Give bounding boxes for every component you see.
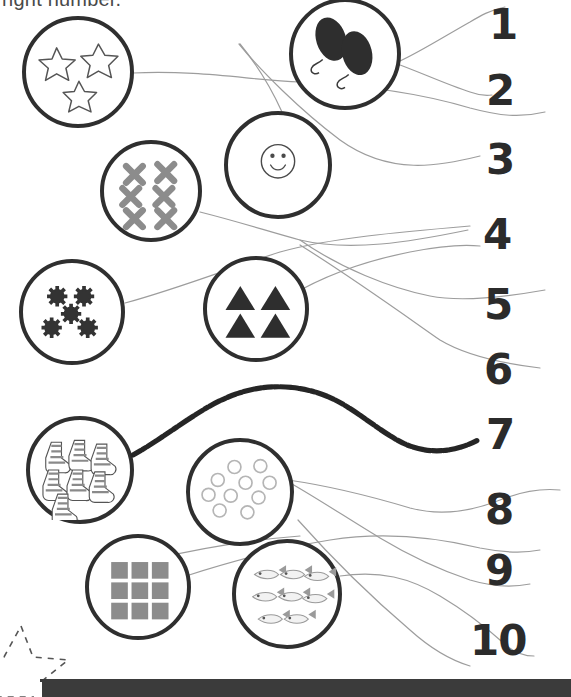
number-item-3[interactable]: 3 (486, 139, 514, 181)
number-column: 1 2 3 4 5 6 7 8 9 10 (0, 0, 571, 697)
worksheet-page: right number. (0, 0, 571, 697)
number-item-2[interactable]: 2 (486, 70, 514, 112)
number-item-6[interactable]: 6 (484, 349, 512, 391)
page-footer-bar (40, 679, 571, 697)
number-item-1[interactable]: 1 (489, 4, 517, 46)
number-item-5[interactable]: 5 (484, 284, 512, 326)
number-item-7[interactable]: 7 (486, 414, 514, 456)
number-item-9[interactable]: 9 (485, 550, 513, 592)
number-item-10[interactable]: 10 (470, 620, 526, 662)
number-item-4[interactable]: 4 (483, 214, 511, 256)
number-item-8[interactable]: 8 (485, 489, 513, 531)
